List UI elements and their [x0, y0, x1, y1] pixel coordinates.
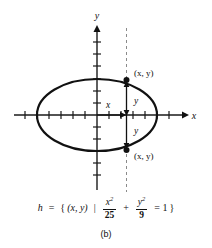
- equation-open-brace: {: [60, 203, 65, 213]
- equation-term2-exponent: 2: [142, 195, 145, 202]
- point-upper-marker: [124, 77, 130, 83]
- equation-ordered-pair: (x, y): [67, 203, 88, 213]
- equation-set-name: h: [38, 203, 43, 213]
- x-axis-arrowhead: [182, 112, 189, 119]
- equation-term1-fraction: x2 25: [103, 196, 117, 220]
- x-axis-label: x: [191, 110, 197, 121]
- y-axis-arrowhead: [94, 25, 101, 32]
- equation-operator: +: [123, 203, 129, 213]
- equation-term2-denominator: 9: [137, 210, 146, 221]
- equation-such-that-bar: |: [94, 203, 96, 213]
- y-axis-label: y: [94, 10, 100, 21]
- equation-term1-denominator: 25: [103, 210, 117, 221]
- figure-caption: (b): [0, 229, 212, 239]
- y-segment-upper-label: y: [133, 96, 139, 106]
- x-segment-label: x: [105, 100, 111, 110]
- equation-term1-exponent: 2: [110, 195, 113, 202]
- point-lower-label: (x, y): [134, 151, 154, 161]
- point-upper-label: (x, y): [134, 68, 154, 78]
- set-builder-equation: h = { (x, y) | x2 25 + y2 9 = 1: [0, 196, 212, 220]
- y-segment-lower-label: y: [133, 126, 139, 136]
- point-lower-marker: [124, 147, 130, 153]
- equation-equals: =: [49, 203, 55, 213]
- equation-term2-fraction: y2 9: [136, 196, 147, 220]
- figure-panel: x y x y y (x, y) (x, y) h = { (x, y) | x…: [0, 0, 212, 248]
- equation-relation: = 1: [154, 203, 167, 213]
- equation-close-brace: }: [169, 203, 174, 213]
